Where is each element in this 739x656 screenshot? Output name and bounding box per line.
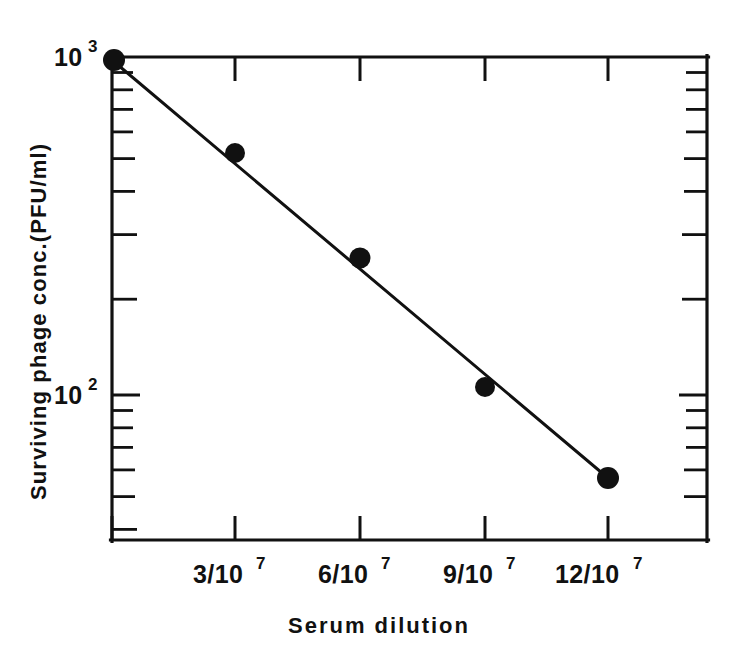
axes-frame [111, 56, 709, 542]
data-point-9 [475, 377, 495, 397]
y-axis-left-ticks [112, 73, 140, 530]
x-tick-label-6-exponent: 7 [381, 554, 390, 573]
regression-line [112, 60, 608, 478]
x-axis-tick-labels: 3/10 7 6/10 7 9/10 7 12/10 7 [193, 554, 642, 588]
x-tick-label-9-exponent: 7 [506, 554, 515, 573]
figure-container: 10 3 10 2 3/10 7 6/10 7 9/10 7 12/10 7 S… [0, 0, 739, 656]
x-tick-label-12-mantissa: 12/10 [555, 560, 620, 588]
x-axis-top-ticks [235, 57, 608, 81]
y-tick-label-100-exponent: 2 [88, 375, 97, 394]
x-tick-label-3-exponent: 7 [256, 554, 265, 573]
x-tick-label-12-exponent: 7 [633, 554, 642, 573]
data-point-0 [103, 49, 125, 71]
semilog-plot: 10 3 10 2 3/10 7 6/10 7 9/10 7 12/10 7 S… [0, 0, 739, 656]
x-tick-label-9-mantissa: 9/10 [443, 560, 493, 588]
data-point-12 [597, 467, 619, 489]
y-axis-right-ticks [679, 73, 707, 497]
data-point-3 [225, 143, 245, 163]
y-tick-label-1000-exponent: 3 [88, 37, 97, 56]
y-tick-label-1000-mantissa: 10 [54, 43, 83, 71]
x-tick-label-3-mantissa: 3/10 [193, 560, 243, 588]
y-axis-title: Surviving phage conc.(PFU/ml) [26, 143, 51, 500]
data-point-6 [350, 248, 371, 269]
y-tick-label-100-mantissa: 10 [54, 381, 83, 409]
y-axis-tick-labels: 10 3 10 2 [54, 37, 97, 409]
x-axis-bottom-ticks [112, 516, 608, 540]
x-tick-label-6-mantissa: 6/10 [318, 560, 368, 588]
x-axis-title: Serum dilution [288, 613, 470, 638]
